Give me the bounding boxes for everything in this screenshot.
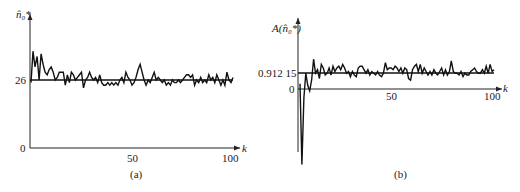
caption-b: (b): [394, 168, 407, 180]
x-axis-label-b: k: [503, 82, 508, 94]
data-line: [300, 59, 494, 164]
x-tick-100-a: 100: [222, 152, 239, 164]
data-line: [31, 51, 233, 88]
chart-panel-a: n̂₀* 26 0 50 100 k (a): [0, 0, 260, 192]
caption-a: (a): [130, 168, 142, 180]
y-ref-label-b: 0.912 15: [258, 67, 297, 79]
x-axis-label-a: k: [242, 142, 247, 154]
x-axis-arrow-icon: [234, 146, 240, 151]
x-tick-50-a: 50: [127, 152, 138, 164]
y-axis-label-b: A(n̂₀*): [272, 22, 301, 34]
x-tick-100-b: 100: [484, 90, 501, 102]
x-tick-50-b: 50: [386, 90, 397, 102]
y-ref-label-a: 26: [15, 74, 26, 86]
y-zero-label-b: 0: [289, 83, 295, 95]
y-axis-label-a: n̂₀*: [16, 8, 31, 20]
chart-panel-b: A(n̂₀*) 0.912 15 0 50 100 k (b): [260, 0, 520, 192]
y-zero-label-a: 0: [20, 142, 26, 154]
